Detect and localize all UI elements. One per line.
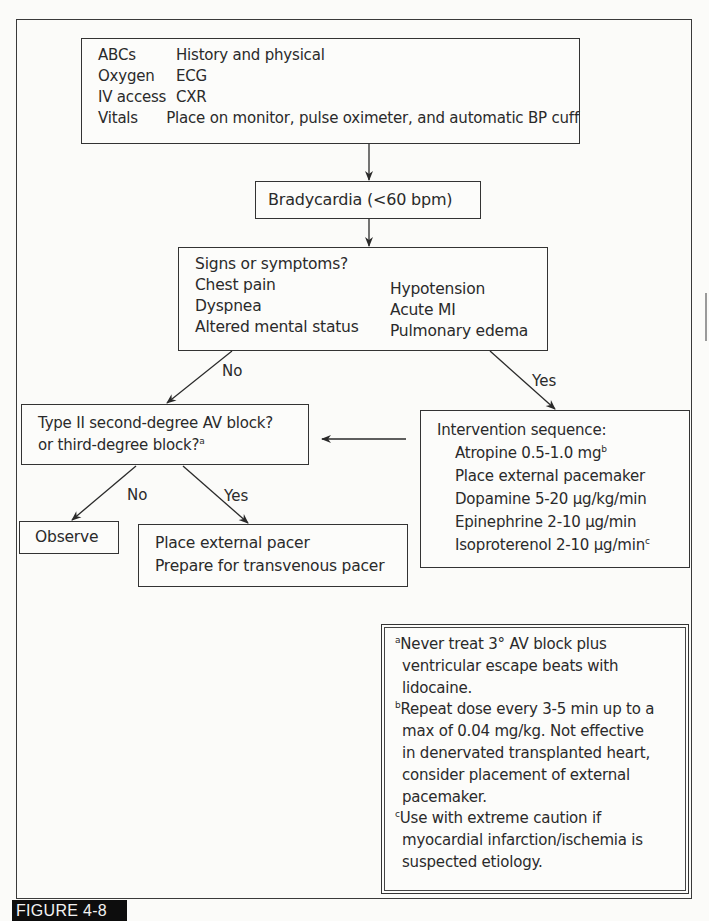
figure-label: FIGURE 4-8: [12, 900, 127, 921]
signs-no-label: No: [222, 362, 242, 380]
pacer-box: Place external pacer Prepare for transve…: [138, 524, 408, 587]
av-block-box: Type II second-degree AV block? or third…: [21, 404, 309, 465]
intervention-item: Epinephrine 2-10 µg/min: [437, 511, 689, 534]
signs-symptoms-box: Signs or symptoms? Chest pain Dyspnea Al…: [178, 247, 548, 351]
observe-text: Observe: [35, 528, 98, 546]
pacer-line1: Place external pacer: [155, 532, 407, 555]
assessment-row: ABCs History and physical: [98, 45, 579, 66]
assessment-left: ABCs: [98, 45, 176, 66]
bradycardia-box: Bradycardia (<60 bpm): [255, 181, 481, 219]
page-edge-mark: [705, 293, 707, 341]
intervention-title: Intervention sequence:: [437, 419, 689, 442]
sign-item: Pulmonary edema: [390, 321, 528, 342]
intervention-item: Place external pacemaker: [437, 465, 689, 488]
intervention-item: Dopamine 5-20 µg/kg/min: [437, 488, 689, 511]
assessment-left: IV access: [98, 87, 176, 108]
initial-assessment-box: ABCs History and physical Oxygen ECG IV …: [81, 38, 580, 144]
intervention-item: Atropine 0.5-1.0 mgb: [437, 442, 689, 465]
assessment-right: Place on monitor, pulse oximeter, and au…: [166, 108, 579, 129]
assessment-left: Vitals: [98, 108, 166, 129]
sign-item: Hypotension: [390, 279, 528, 300]
signs-title: Signs or symptoms?: [195, 254, 547, 275]
assessment-row: IV access CXR: [98, 87, 579, 108]
signs-right-column: Hypotension Acute MI Pulmonary edema: [390, 275, 528, 342]
sign-item: Acute MI: [390, 300, 528, 321]
sign-item: Chest pain: [195, 275, 390, 296]
bradycardia-text: Bradycardia (<60 bpm): [268, 190, 452, 209]
assessment-left: Oxygen: [98, 66, 176, 87]
signs-left-column: Chest pain Dyspnea Altered mental status: [195, 275, 390, 342]
assessment-right: CXR: [176, 87, 207, 108]
pacer-line2: Prepare for transvenous pacer: [155, 555, 407, 578]
assessment-row: Oxygen ECG: [98, 66, 579, 87]
av-block-line1: Type II second-degree AV block?: [38, 412, 308, 434]
footnote-ref-a: a: [199, 436, 204, 446]
sign-item: Dyspnea: [195, 296, 390, 317]
assessment-row: Vitals Place on monitor, pulse oximeter,…: [98, 108, 579, 129]
av-block-line2: or third-degree block?: [38, 436, 199, 454]
intervention-item: Isoproterenol 2-10 µg/minc: [437, 534, 689, 557]
intervention-box: Intervention sequence: Atropine 0.5-1.0 …: [420, 410, 690, 568]
observe-box: Observe: [19, 521, 119, 554]
block-no-label: No: [127, 486, 147, 504]
footnotes-box: aNever treat 3° AV block plus ventricula…: [381, 624, 689, 894]
sign-item: Altered mental status: [195, 317, 390, 338]
footnote-a: aNever treat 3° AV block plus ventricula…: [395, 634, 685, 699]
signs-yes-label: Yes: [532, 372, 556, 390]
assessment-right: History and physical: [176, 45, 325, 66]
assessment-right: ECG: [176, 66, 207, 87]
block-yes-label: Yes: [224, 487, 248, 505]
footnote-b: bRepeat dose every 3-5 min up to a max o…: [395, 699, 685, 808]
footnote-c: cUse with extreme caution if myocardial …: [395, 808, 685, 873]
